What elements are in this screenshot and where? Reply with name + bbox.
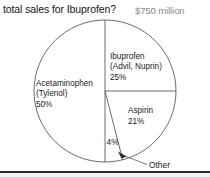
acetaminophen-label-line1: Acetaminophen <box>36 79 93 88</box>
pie-chart-area: Ibuprofen (Advil, Nuprin) 25% Acetaminop… <box>0 14 210 169</box>
acetaminophen-label-line2: (Tylenol) <box>36 89 68 98</box>
bottom-margin <box>0 173 210 177</box>
pie-chart-svg: Ibuprofen (Advil, Nuprin) 25% Acetaminop… <box>0 14 210 169</box>
aspirin-label-percent: 21% <box>128 117 144 126</box>
pie-chart-figure: total sales for Ibuprofen? $750 million … <box>0 0 210 177</box>
ibuprofen-label-percent: 25% <box>110 73 126 82</box>
acetaminophen-label-percent: 50% <box>36 100 52 109</box>
other-label-percent: 4% <box>107 137 120 147</box>
aspirin-label-line1: Aspirin <box>128 106 153 115</box>
other-callout-label: Other <box>149 160 170 170</box>
ibuprofen-label-line2: (Advil, Nuprin) <box>110 62 162 71</box>
ibuprofen-label-line1: Ibuprofen <box>110 52 145 61</box>
